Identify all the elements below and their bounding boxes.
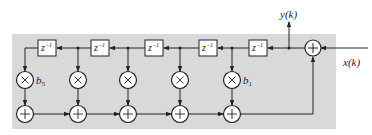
adder-5 bbox=[224, 106, 241, 123]
delay-block-1: z−1 bbox=[249, 40, 267, 56]
multiplier-b2 bbox=[172, 72, 189, 89]
top-adder bbox=[305, 40, 321, 56]
delay-block-5: z−1 bbox=[38, 40, 56, 56]
delay-block-3: z−1 bbox=[145, 40, 163, 56]
output-label: y(k) bbox=[279, 8, 297, 21]
multiplier-b3 bbox=[120, 72, 137, 89]
adder-2 bbox=[70, 106, 87, 123]
input-label: x(k) bbox=[342, 56, 360, 69]
adder-3 bbox=[120, 106, 137, 123]
multiplier-b4 bbox=[70, 72, 87, 89]
delay-block-4: z−1 bbox=[91, 40, 109, 56]
multiplier-b1 bbox=[224, 72, 241, 89]
multiplier-b5 bbox=[17, 72, 34, 89]
adder-4 bbox=[172, 106, 189, 123]
adder-1 bbox=[17, 106, 34, 123]
block-diagram: z−1 z−1 z−1 z−1 z−1 b5 bbox=[0, 0, 372, 135]
delay-block-2: z−1 bbox=[199, 40, 217, 56]
